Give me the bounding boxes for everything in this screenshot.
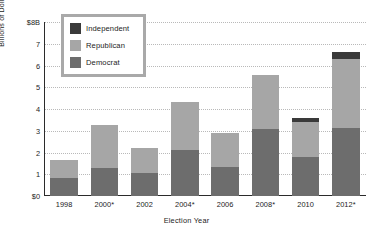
bar-group: [292, 118, 319, 196]
legend-swatch-republican: [70, 40, 81, 51]
x-axis-tick-label: 1998: [44, 200, 84, 209]
bar-group: [211, 133, 238, 196]
bar-segment-republican: [332, 59, 359, 128]
x-axis-tick-label: 2008*: [245, 200, 285, 209]
bar-segment-democrat: [171, 150, 198, 196]
bar-segment-republican: [211, 133, 238, 167]
bar-segment-democrat: [332, 128, 359, 197]
x-axis-tick-label: 2000*: [84, 200, 124, 209]
bar-segment-democrat: [131, 173, 158, 196]
legend-label-democrat: Democrat: [86, 58, 120, 67]
bar-segment-democrat: [292, 157, 319, 196]
chart-legend: Independent Republican Democrat: [61, 14, 146, 77]
bar-segment-republican: [252, 75, 279, 128]
y-axis-tick-label: 6: [0, 62, 40, 71]
y-axis-tick-label: 5: [0, 83, 40, 92]
legend-label-independent: Independent: [86, 24, 129, 33]
x-axis-tick-label: 2002: [125, 200, 165, 209]
x-axis-tick-label: 2012*: [326, 200, 366, 209]
legend-swatch-democrat: [70, 57, 81, 68]
legend-item-democrat: Democrat: [70, 57, 138, 68]
bar-segment-republican: [292, 122, 319, 157]
bar-segment-republican: [91, 125, 118, 168]
legend-item-republican: Republican: [70, 40, 138, 51]
bar-segment-democrat: [91, 168, 118, 196]
bar-segment-republican: [171, 102, 198, 150]
legend-item-independent: Independent: [70, 23, 138, 34]
bar-segment-democrat: [50, 178, 77, 196]
legend-swatch-independent: [70, 23, 81, 34]
bar-group: [50, 160, 77, 196]
bar-segment-republican: [50, 160, 77, 178]
y-axis-tick-label: 1: [0, 170, 40, 179]
x-axis-tick-label: 2006: [205, 200, 245, 209]
stacked-bar-chart: Billions of Dollars $01234567$8B 1998200…: [0, 0, 373, 235]
y-axis-tick-label: $8B: [0, 18, 40, 27]
y-axis-tick-label: 2: [0, 149, 40, 158]
bar-group: [332, 52, 359, 196]
bar-segment-democrat: [252, 129, 279, 196]
y-axis-tick-label: 3: [0, 127, 40, 136]
bar-segment-democrat: [211, 167, 238, 196]
bar-group: [171, 102, 198, 196]
x-axis-tick-label: 2010: [286, 200, 326, 209]
x-axis-tick-label: 2004*: [165, 200, 205, 209]
legend-label-republican: Republican: [86, 41, 125, 50]
y-axis-tick-label: 4: [0, 105, 40, 114]
bar-group: [131, 148, 158, 196]
y-axis-tick-label: $0: [0, 192, 40, 201]
y-axis-tick-label: 7: [0, 40, 40, 49]
bar-group: [252, 75, 279, 196]
x-axis-title: Election Year: [0, 216, 373, 225]
bar-segment-republican: [131, 148, 158, 173]
bar-group: [91, 125, 118, 196]
